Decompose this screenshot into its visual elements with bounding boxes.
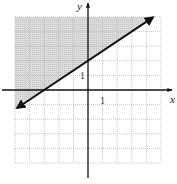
y-tick-label: 1 — [80, 70, 85, 81]
inequality-graph: x y 1 1 — [0, 0, 177, 184]
y-axis-label: y — [76, 0, 82, 12]
x-tick-label: 1 — [100, 95, 105, 106]
x-axis-label: x — [169, 93, 175, 105]
